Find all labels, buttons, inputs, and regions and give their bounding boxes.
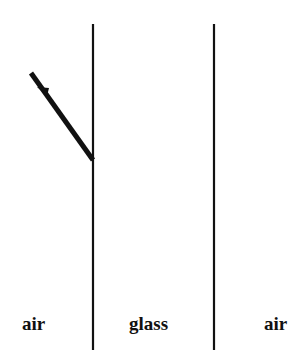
refraction-diagram: [0, 0, 308, 363]
region-label-glass: glass: [129, 313, 168, 335]
ray-arrow-icon: [37, 87, 49, 96]
region-label-air-right: air: [264, 313, 287, 335]
incident-ray: [31, 73, 93, 160]
region-label-air-left: air: [22, 313, 45, 335]
